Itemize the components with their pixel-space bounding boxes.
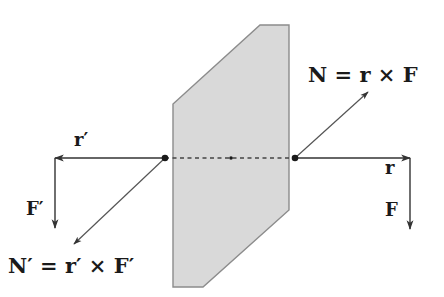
right-point-dot: [292, 155, 299, 162]
F-label: F: [385, 201, 398, 219]
N-torque-arrow: [295, 92, 368, 158]
N-prime-torque-arrow: [74, 158, 165, 244]
torque-equation-label: N = r × F: [308, 64, 418, 85]
F-prime-label: F′: [26, 200, 44, 218]
r-prime-label: r′: [74, 131, 88, 149]
left-point-dot: [162, 155, 169, 162]
torque-mirror-diagram: N = r × F N′ = r′ × F′ r′ F′ r F: [0, 0, 444, 297]
mirror-plane: [173, 25, 289, 287]
torque-prime-equation-label: N′ = r′ × F′: [8, 255, 134, 276]
r-label: r: [385, 159, 394, 177]
center-point-dot: [229, 156, 233, 160]
